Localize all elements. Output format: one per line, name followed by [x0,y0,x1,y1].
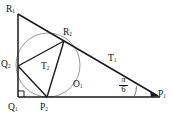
geometry-figure: R1 Q2 Q1 P2 R2 T1 T2 O1 P1 π 6 [0,0,173,117]
angle-denominator: 6 [119,86,128,94]
angle-value-pi-over-6: π 6 [119,76,128,94]
label-Q2: Q2 [1,60,10,70]
label-R1: R1 [6,5,15,15]
label-R2: R2 [63,28,72,38]
label-O1: O1 [73,80,82,90]
diagram-canvas [0,0,173,117]
angle-numerator: π [119,76,128,84]
label-T2: T2 [41,62,49,72]
label-P2: P2 [40,103,48,113]
right-angle-marker [18,91,24,97]
label-P1: P1 [158,90,166,100]
arrowhead-P1 [150,91,158,97]
label-Q1: Q1 [8,103,17,113]
label-T1: T1 [108,54,116,64]
angle-arc [134,87,137,98]
